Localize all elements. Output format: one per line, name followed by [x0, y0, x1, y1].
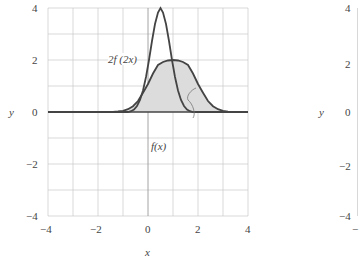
panel2-grid-edge: [357, 8, 358, 216]
panel2-y-tick-neg2: −2: [339, 160, 351, 172]
chart-canvas: [0, 0, 359, 264]
annotation-fx: f(x): [149, 140, 168, 152]
panel2-y-tick-0: 0: [345, 106, 351, 118]
panel2-y-tick-neg4: −4: [339, 210, 351, 222]
y-axis-label: y: [9, 106, 14, 118]
x-tick-0: 0: [145, 223, 151, 235]
y-tick-4: 4: [32, 2, 38, 14]
panel2-x-tick-partial: −: [352, 223, 358, 235]
annotation-2f2x: 2f (2x): [108, 53, 137, 65]
y-tick-0: 0: [32, 106, 38, 118]
x-tick-2: 2: [195, 223, 201, 235]
y-tick-neg2: −2: [26, 158, 38, 170]
y-tick-neg4: −4: [26, 210, 38, 222]
panel2-y-tick-4: 4: [345, 2, 351, 14]
x-axis-label: x: [145, 246, 150, 258]
panel2-y-axis-label: y: [319, 106, 324, 118]
x-tick-neg4: −4: [40, 223, 52, 235]
x-tick-4: 4: [245, 223, 251, 235]
y-tick-2: 2: [32, 54, 38, 66]
x-tick-neg2: −2: [90, 223, 102, 235]
panel2-y-tick-2: 2: [345, 58, 351, 70]
